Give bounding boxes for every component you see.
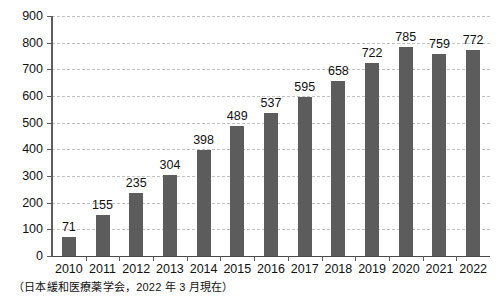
bar-value-label: 304 bbox=[148, 159, 192, 172]
y-axis-tick-label: 600 bbox=[3, 90, 43, 102]
gridline bbox=[52, 69, 490, 70]
bar bbox=[129, 193, 143, 256]
x-axis-tick-mark bbox=[153, 256, 154, 261]
y-axis-tick-label: 200 bbox=[3, 197, 43, 209]
x-axis-tick-mark bbox=[423, 256, 424, 261]
bar bbox=[331, 81, 345, 256]
bar-value-label: 772 bbox=[451, 34, 495, 47]
bar bbox=[62, 237, 76, 256]
x-axis-tick-mark bbox=[322, 256, 323, 261]
y-axis-tick-label: 0 bbox=[3, 250, 43, 262]
x-axis-tick-mark bbox=[254, 256, 255, 261]
plot-area bbox=[52, 16, 490, 256]
bar bbox=[365, 63, 379, 256]
y-axis-tick-label: 900 bbox=[3, 10, 43, 22]
x-axis-line bbox=[52, 256, 490, 257]
bar bbox=[230, 126, 244, 256]
bar bbox=[399, 47, 413, 256]
y-axis-tick-label: 800 bbox=[3, 37, 43, 49]
y-axis-tick-label: 100 bbox=[3, 223, 43, 235]
bar-value-label: 235 bbox=[114, 177, 158, 190]
bar bbox=[264, 113, 278, 256]
x-axis-tick-mark bbox=[119, 256, 120, 261]
bar-value-label: 722 bbox=[350, 47, 394, 60]
bar-value-label: 398 bbox=[182, 134, 226, 147]
bar-value-label: 155 bbox=[81, 199, 125, 212]
x-axis-tick-mark bbox=[389, 256, 390, 261]
x-axis-tick-mark bbox=[288, 256, 289, 261]
x-axis-tick-mark bbox=[220, 256, 221, 261]
bar bbox=[197, 150, 211, 256]
bar bbox=[298, 97, 312, 256]
y-axis-tick-label: 700 bbox=[3, 63, 43, 75]
figure-caption: （日本緩和医療薬学会，2022 年 3 月現在） bbox=[13, 280, 234, 294]
y-axis-tick-label: 500 bbox=[3, 117, 43, 129]
bar bbox=[163, 175, 177, 256]
bar bbox=[96, 215, 110, 256]
bar-value-label: 537 bbox=[249, 97, 293, 110]
bar bbox=[466, 50, 480, 256]
y-axis-tick-label: 300 bbox=[3, 170, 43, 182]
y-axis-tick-label: 400 bbox=[3, 143, 43, 155]
x-axis-tick-mark bbox=[355, 256, 356, 261]
bar-value-label: 595 bbox=[283, 81, 327, 94]
x-axis-tick-mark bbox=[86, 256, 87, 261]
bar-value-label: 658 bbox=[316, 65, 360, 78]
x-axis-tick-mark bbox=[187, 256, 188, 261]
x-axis-tick-mark bbox=[456, 256, 457, 261]
bar-chart-figure: （日本緩和医療薬学会，2022 年 3 月現在） 010020030040050… bbox=[0, 0, 497, 299]
bar bbox=[432, 54, 446, 256]
x-axis-tick-label: 2022 bbox=[450, 262, 496, 276]
gridline bbox=[52, 16, 490, 17]
bar-value-label: 71 bbox=[47, 221, 91, 234]
bar-value-label: 489 bbox=[215, 110, 259, 123]
